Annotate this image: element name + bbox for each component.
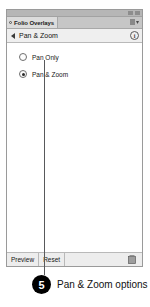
page-title: Pan & Zoom (19, 32, 130, 39)
breadcrumb: Pan & Zoom i (7, 29, 142, 43)
trash-icon[interactable] (126, 255, 138, 264)
radio-pan-and-zoom[interactable] (19, 70, 27, 78)
tab-folio-overlays[interactable]: Folio Overlays (7, 17, 58, 28)
panel-tab-bar: Folio Overlays (7, 17, 142, 29)
tab-label: Folio Overlays (14, 20, 54, 26)
callout-caption: Pan & Zoom options (57, 279, 148, 290)
option-pan-only[interactable]: Pan Only (19, 52, 142, 62)
option-label: Pan & Zoom (32, 71, 68, 78)
option-label: Pan Only (32, 54, 59, 61)
tab-bar-filler (58, 17, 130, 28)
option-pan-and-zoom[interactable]: Pan & Zoom (19, 69, 142, 79)
preview-button[interactable]: Preview (7, 253, 39, 266)
panel-footer: Preview Reset (7, 252, 142, 266)
info-icon[interactable]: i (130, 31, 139, 40)
radio-pan-only[interactable] (19, 53, 27, 61)
back-arrow-icon[interactable] (11, 33, 15, 39)
panel-body: Pan Only Pan & Zoom (7, 43, 142, 252)
callout: 5 Pan & Zoom options (32, 275, 148, 294)
circle-dot-icon (9, 21, 12, 24)
callout-badge: 5 (32, 275, 51, 294)
callout-leader-line (44, 60, 45, 275)
panel-menu-icon[interactable] (130, 17, 142, 28)
window-title-strip (7, 10, 142, 17)
minimize-icon[interactable] (128, 11, 133, 15)
folio-overlays-panel: Folio Overlays Pan & Zoom i Pan Only Pan… (6, 9, 143, 267)
close-icon[interactable] (135, 11, 140, 15)
